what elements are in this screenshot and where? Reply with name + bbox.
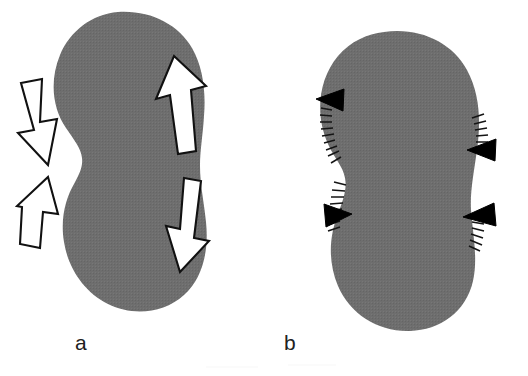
panel-b-graphic — [264, 0, 528, 376]
scan-artifact — [206, 366, 258, 368]
scan-artifact — [288, 364, 336, 366]
panel-a: a — [0, 0, 264, 376]
arrow-upper-left-inward — [18, 79, 57, 165]
figure-root: a — [0, 0, 528, 376]
bean-shape-outline — [320, 31, 479, 331]
panel-a-graphic — [0, 0, 264, 376]
arrow-lower-left-inward — [17, 177, 58, 248]
panel-label-b: b — [158, 332, 422, 353]
panel-b: b — [264, 0, 528, 376]
